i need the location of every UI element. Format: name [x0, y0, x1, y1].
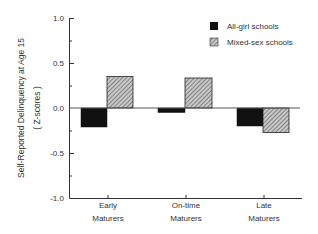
category-label: Early [99, 201, 117, 210]
legend-label: Mixed-sex schools [227, 38, 293, 47]
y-tick-label: 0.5 [53, 59, 65, 68]
y-tick-label: 0.0 [53, 104, 65, 113]
legend-swatch-all-girl [210, 22, 218, 30]
bar-mixed-sex-ontime [185, 78, 212, 108]
category-label: Maturers [248, 214, 280, 223]
legend: All-girl schools Mixed-sex schools [210, 22, 293, 47]
bar-all-girl-ontime [158, 108, 185, 113]
y-tick-label: 1.0 [53, 14, 65, 23]
bar-mixed-sex-late [263, 108, 289, 133]
y-axis-title: Self-Reported Delinquency at Age 15 ( Z-… [16, 38, 42, 178]
x-category-labels: Early Maturers On-time Maturers Late Mat… [92, 201, 280, 223]
bar-chart: Self-Reported Delinquency at Age 15 ( Z-… [0, 0, 318, 234]
legend-label: All-girl schools [227, 22, 279, 31]
y-axis-label: Self-Reported Delinquency at Age 15 [16, 38, 26, 178]
bar-all-girl-early [81, 108, 107, 127]
y-tick-labels: 1.0 0.5 0.0 -0.5 -1.0 [50, 14, 64, 203]
category-label: Maturers [170, 214, 202, 223]
bars [81, 77, 289, 133]
bar-mixed-sex-early [107, 77, 133, 109]
y-axis-sublabel: ( Z-scores ) [32, 86, 42, 130]
category-label: Late [256, 201, 272, 210]
bar-all-girl-late [237, 108, 263, 126]
y-tick-label: -0.5 [50, 149, 64, 158]
legend-swatch-mixed-sex [210, 38, 218, 46]
category-label: On-time [172, 201, 201, 210]
y-tick-label: -1.0 [50, 194, 64, 203]
category-label: Maturers [92, 214, 124, 223]
